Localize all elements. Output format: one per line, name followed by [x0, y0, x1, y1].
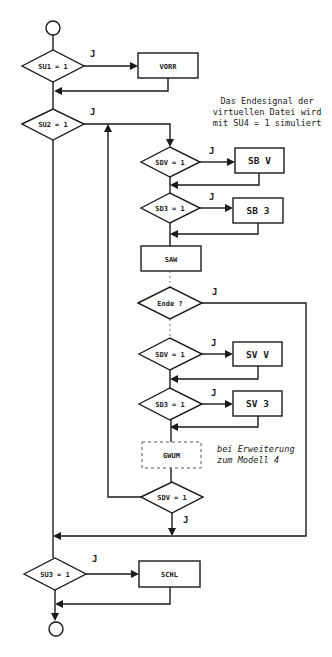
svg-text:zum Modell 4: zum Modell 4	[217, 455, 279, 465]
process-sb3: SB 3	[233, 198, 283, 223]
arrow-up-icon	[104, 124, 112, 132]
connector-loop-back	[108, 131, 141, 497]
decision-sdv-c: SDV = 1	[141, 482, 203, 513]
yes-label: J	[90, 107, 95, 117]
connector-sb3-return	[178, 223, 258, 234]
arrow-right-icon	[130, 62, 138, 70]
decision-ende: Ende ?	[138, 287, 202, 319]
yes-label: J	[92, 554, 97, 564]
connector-schl-return	[63, 587, 170, 604]
connector-su2-yes	[84, 124, 170, 140]
connector-sv3-return	[178, 416, 258, 427]
decision-label: SU1 = 1	[38, 63, 68, 71]
process-label: SV V	[246, 349, 269, 360]
connector-sbv-return	[178, 173, 259, 185]
yes-label: J	[212, 287, 217, 297]
decision-sd3-a: SD3 = 1	[141, 193, 200, 223]
note-endsignal: Das Endesignal der virtuellen Datei wird…	[213, 96, 322, 128]
yes-label: J	[209, 146, 214, 156]
decision-su2: SU2 = 1	[22, 109, 84, 140]
arrow-right-icon	[131, 570, 139, 578]
yes-label: J	[183, 515, 188, 525]
yes-label: J	[211, 388, 216, 398]
connector-vorr-return	[62, 78, 168, 91]
process-label: SB V	[248, 155, 271, 166]
process-gwum-optional: GWUM	[142, 442, 201, 468]
decision-su1: SU1 = 1	[22, 50, 84, 82]
arrow-down-icon	[166, 139, 174, 147]
decision-label: SDV = 1	[157, 494, 187, 502]
arrow-right-icon	[225, 400, 233, 408]
svg-text:Das Endesignal der: Das Endesignal der	[220, 96, 313, 106]
svg-text:bei Erweiterung: bei Erweiterung	[217, 444, 295, 454]
decision-label: SDV = 1	[155, 351, 185, 359]
decision-su3: SU3 = 1	[24, 558, 86, 590]
flowchart-canvas: SU1 = 1 J VORR SU2 = 1 J Das Endesignal …	[0, 0, 332, 657]
svg-text:mit SU4 = 1 simuliert: mit SU4 = 1 simuliert	[213, 118, 322, 128]
process-label: VORR	[160, 63, 178, 71]
process-sbv: SB V	[235, 148, 284, 173]
decision-label: SU2 = 1	[38, 121, 68, 129]
arrow-right-icon	[225, 204, 233, 212]
yes-label: J	[90, 49, 95, 59]
arrow-left-icon	[55, 600, 63, 608]
arrow-right-icon	[225, 350, 233, 358]
decision-label: SDV = 1	[155, 159, 185, 167]
process-label: SCHL	[161, 571, 178, 579]
process-svv: SV V	[233, 342, 282, 366]
arrow-left-icon	[170, 375, 178, 383]
decision-label: SD3 = 1	[155, 401, 185, 409]
decision-label: SD3 = 1	[155, 205, 185, 213]
decision-sdv-a: SDV = 1	[141, 147, 200, 177]
svg-text:virtuellen Datei wird: virtuellen Datei wird	[213, 107, 322, 117]
decision-sd3-b: SD3 = 1	[139, 388, 202, 420]
end-terminal	[49, 622, 63, 636]
process-vorr: VORR	[138, 53, 198, 78]
note-extension: bei Erweiterung zum Modell 4	[217, 444, 295, 465]
process-label: SAW	[165, 256, 178, 264]
process-saw: SAW	[141, 246, 201, 271]
arrow-left-icon	[54, 87, 62, 95]
connector-svv-return	[178, 366, 258, 379]
process-label: SV 3	[246, 398, 269, 409]
arrow-right-icon	[227, 158, 235, 166]
yes-label: J	[211, 338, 216, 348]
decision-label: Ende ?	[157, 300, 182, 308]
process-sv3: SV 3	[233, 391, 282, 416]
decision-sdv-b: SDV = 1	[139, 338, 202, 370]
yes-label: J	[209, 192, 214, 202]
arrow-left-icon	[53, 532, 61, 540]
arrow-left-icon	[170, 230, 178, 238]
arrow-left-icon	[170, 181, 178, 189]
start-terminal	[46, 21, 60, 35]
process-schl: SCHL	[139, 561, 200, 587]
arrow-down-icon	[168, 528, 176, 536]
decision-label: SU3 = 1	[40, 571, 70, 579]
process-label: GWUM	[163, 452, 180, 460]
process-label: SB 3	[247, 205, 270, 216]
arrow-down-icon	[51, 613, 59, 621]
